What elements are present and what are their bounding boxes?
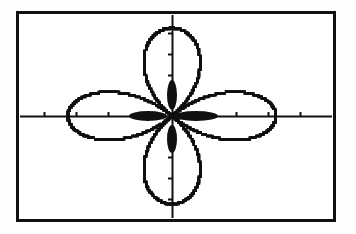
rose-curve-plot — [0, 0, 356, 234]
calculator-screen-image — [0, 0, 356, 234]
